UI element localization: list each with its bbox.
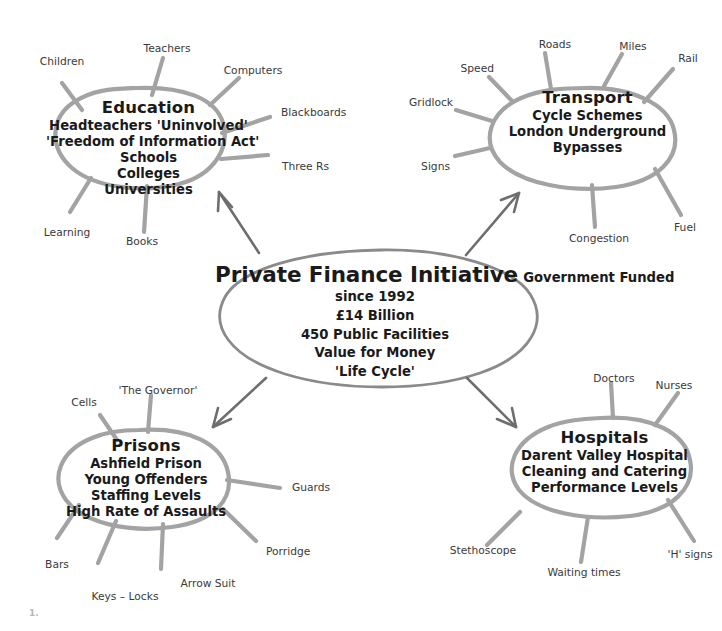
branch-label-transport-speed: Speed: [460, 62, 494, 75]
branch-label-education-three-rs: Three Rs: [282, 160, 329, 173]
topic-lines-transport: Cycle SchemesLondon UndergroundBypasses: [500, 108, 675, 156]
topic-title-hospitals: Hospitals: [512, 428, 697, 447]
arrow-to-transport: [466, 193, 519, 255]
topic-node-prisons: Prisons Ashfield PrisonYoung OffendersSt…: [60, 436, 232, 520]
branch-label-hospitals-doctors: Doctors: [593, 372, 634, 385]
topic-node-hospitals: Hospitals Darent Valley HospitalCleaning…: [512, 428, 697, 496]
branch-label-education-learning: Learning: [44, 226, 90, 239]
branch-label-education-teachers: Teachers: [143, 42, 190, 55]
branch-label-transport-miles: Miles: [619, 40, 646, 53]
topic-title-education: Education: [46, 98, 251, 117]
branch-label-prisons-guards: Guards: [292, 481, 330, 494]
center-node: Private Finance Initiative Government Fu…: [215, 262, 535, 381]
mindmap-canvas: Private Finance Initiative Government Fu…: [0, 0, 722, 631]
branch-label-education-computers: Computers: [224, 64, 283, 77]
branch-label-prisons-the-governor: 'The Governor': [119, 384, 198, 397]
center-title: Private Finance Initiative: [215, 262, 518, 287]
branch-label-education-children: Children: [40, 55, 84, 68]
branch-label-transport-roads: Roads: [539, 38, 571, 51]
branch-label-hospitals-h-signs: 'H' signs: [668, 548, 713, 561]
topic-title-prisons: Prisons: [60, 436, 232, 455]
corner-figure-number: 1.: [29, 608, 39, 618]
branch-label-transport-fuel: Fuel: [674, 221, 696, 234]
branch-label-education-books: Books: [126, 235, 158, 248]
arrow-to-education: [218, 192, 259, 253]
topic-title-transport: Transport: [500, 88, 675, 107]
branch-label-transport-gridlock: Gridlock: [409, 96, 453, 109]
branch-label-education-blackboards: Blackboards: [281, 106, 346, 119]
branch-label-transport-rail: Rail: [678, 52, 698, 65]
topic-lines-hospitals: Darent Valley HospitalCleaning and Cater…: [512, 448, 697, 496]
topic-lines-prisons: Ashfield PrisonYoung OffendersStaffing L…: [60, 456, 232, 519]
topic-node-education: Education Headteachers 'Uninvolved''Free…: [46, 98, 251, 198]
branch-label-hospitals-waiting-times: Waiting times: [547, 566, 620, 579]
branch-label-hospitals-stethoscope: Stethoscope: [450, 544, 516, 557]
branch-label-hospitals-nurses: Nurses: [656, 379, 693, 392]
branch-label-prisons-cells: Cells: [71, 396, 97, 409]
topic-node-transport: Transport Cycle SchemesLondon Undergroun…: [500, 88, 675, 156]
branch-label-prisons-arrow-suit: Arrow Suit: [180, 577, 235, 590]
branch-label-prisons-porridge: Porridge: [266, 545, 310, 558]
branch-label-prisons-bars: Bars: [45, 558, 69, 571]
branch-label-prisons-keys-locks: Keys – Locks: [91, 590, 158, 603]
branch-label-transport-signs: Signs: [421, 160, 450, 173]
arrow-to-hospitals: [467, 378, 516, 427]
topic-lines-education: Headteachers 'Uninvolved''Freedom of Inf…: [46, 118, 251, 197]
arrow-to-prisons: [213, 378, 266, 427]
branch-label-transport-congestion: Congestion: [569, 232, 629, 245]
